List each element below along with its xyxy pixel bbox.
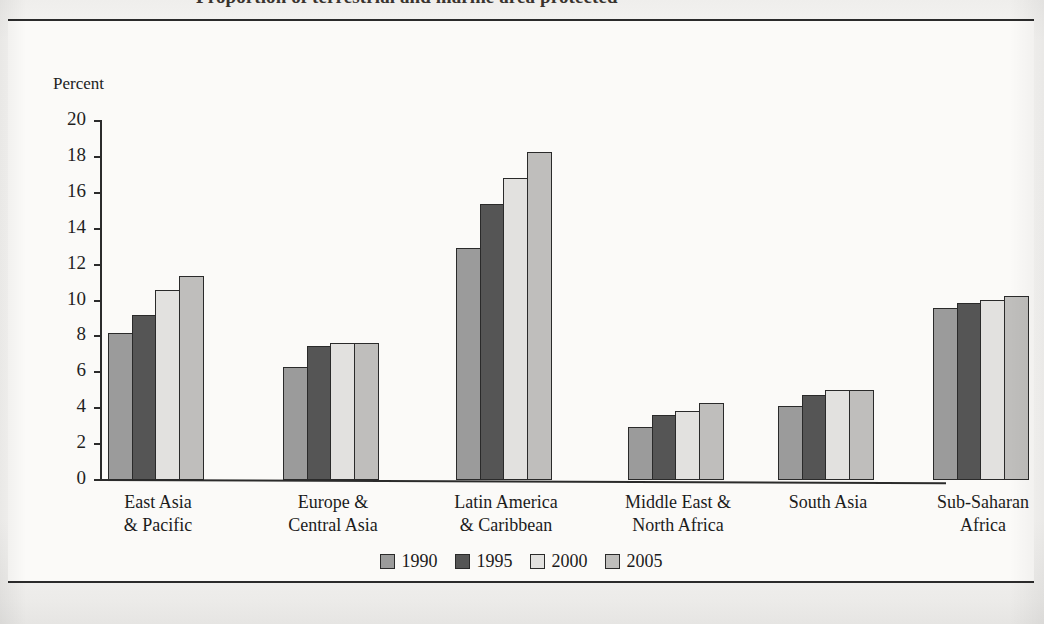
x-axis-label-line: Sub-Saharan [893, 491, 1044, 514]
x-axis-label: South Asia [738, 491, 918, 514]
bar-1995 [307, 346, 332, 480]
x-axis-label-line: Latin America [416, 491, 596, 514]
bar-2005 [354, 343, 379, 480]
bar-1990 [108, 333, 133, 480]
figure-title-clip: Proportion of terrestrial and marine are… [0, 0, 1044, 16]
bar-1990 [456, 248, 481, 480]
bar-2000 [825, 390, 850, 480]
legend-label: 2005 [627, 551, 663, 572]
x-axis-label-line: South Asia [738, 491, 918, 514]
x-axis-label-line: & Pacific [68, 514, 248, 537]
bar-1990 [628, 427, 653, 480]
bar-1995 [132, 315, 157, 480]
y-axis-title: Percent [53, 74, 104, 94]
x-axis-label: East Asia& Pacific [68, 491, 248, 537]
y-axis-tick-label: 10 [52, 288, 86, 310]
bar-1990 [283, 367, 308, 480]
bar-1995 [802, 395, 827, 480]
bar-1995 [957, 303, 982, 480]
legend-item-1995[interactable]: 1995 [455, 551, 513, 572]
legend-label: 1995 [477, 551, 513, 572]
legend-item-2005[interactable]: 2005 [605, 551, 663, 572]
x-axis-label: Europe &Central Asia [243, 491, 423, 537]
bar-1990 [933, 308, 958, 480]
bar-1990 [778, 406, 803, 480]
y-axis-tick-label: 6 [52, 359, 86, 381]
bar-group [108, 121, 203, 480]
y-axis-tick-label: 20 [52, 108, 86, 130]
legend-item-2000[interactable]: 2000 [530, 551, 588, 572]
x-axis-label-line: North Africa [588, 514, 768, 537]
bar-2000 [330, 343, 355, 480]
x-axis-label-line: Central Asia [243, 514, 423, 537]
x-axis-label-line: Africa [893, 514, 1044, 537]
plot-bars [101, 121, 946, 480]
y-axis-tick-label: 2 [52, 431, 86, 453]
x-axis-label-line: & Caribbean [416, 514, 596, 537]
y-axis-tick-label: 16 [52, 180, 86, 202]
bar-1995 [480, 204, 505, 480]
legend-swatch-icon [530, 554, 545, 569]
y-axis-tick-label: 18 [52, 144, 86, 166]
y-axis-tick-label: 8 [52, 323, 86, 345]
bar-2005 [527, 152, 552, 480]
bar-group [283, 121, 378, 480]
bar-2005 [1004, 296, 1029, 480]
bar-group [933, 121, 1028, 480]
bar-2005 [699, 403, 724, 480]
bar-group [778, 121, 873, 480]
bar-2000 [503, 178, 528, 480]
y-axis-tick-label: 14 [52, 216, 86, 238]
y-axis-tick-label: 12 [52, 252, 86, 274]
bar-2005 [179, 276, 204, 480]
x-axis-label: Latin America& Caribbean [416, 491, 596, 537]
legend-item-1990[interactable]: 1990 [380, 551, 438, 572]
legend-swatch-icon [380, 554, 395, 569]
legend-label: 2000 [552, 551, 588, 572]
chart-area: Percent 02468101214161820 East Asia& Pac… [8, 19, 1034, 583]
figure-title: Proportion of terrestrial and marine are… [196, 0, 618, 8]
y-axis-tick-label: 4 [52, 395, 86, 417]
source-clip: Source: http://millenniumindicators.un.o… [0, 594, 1044, 616]
x-axis-label-line: East Asia [68, 491, 248, 514]
legend: 1990199520002005 [8, 551, 1034, 572]
bar-1995 [652, 415, 677, 480]
legend-label: 1990 [402, 551, 438, 572]
x-axis-label-line: Europe & [243, 491, 423, 514]
x-axis-label: Sub-SaharanAfrica [893, 491, 1044, 537]
bar-2005 [849, 390, 874, 480]
bar-2000 [675, 411, 700, 480]
bar-2000 [155, 290, 180, 480]
bar-2000 [980, 300, 1005, 480]
legend-swatch-icon [455, 554, 470, 569]
y-axis-tick-label: 0 [52, 467, 86, 489]
bar-group [456, 121, 551, 480]
legend-swatch-icon [605, 554, 620, 569]
figure-page: Proportion of terrestrial and marine are… [0, 0, 1044, 624]
bar-group [628, 121, 723, 480]
